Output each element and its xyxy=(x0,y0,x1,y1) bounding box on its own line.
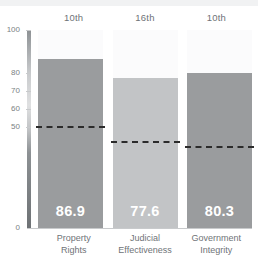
y-tick-mark-80 xyxy=(26,73,31,74)
y-tick-mark-70 xyxy=(26,91,31,92)
category-label-line-1: Government xyxy=(182,233,251,245)
bar-chart-panel: 10th 16th 10th 100 80 70 60 50 0 86.9 xyxy=(0,0,258,262)
rank-label-government-integrity: 10th xyxy=(181,11,252,25)
bar-column-government-integrity[interactable]: 80.3 xyxy=(187,28,252,230)
bar-property-rights[interactable]: 86.9 xyxy=(38,59,103,228)
y-tick-mark-60 xyxy=(26,109,31,110)
category-label-judicial-effectiveness: Judicial Effectiveness xyxy=(109,233,180,256)
bar-column-property-rights[interactable]: 86.9 xyxy=(38,28,103,230)
y-tick-label-70: 70 xyxy=(0,87,20,95)
category-label-line-1: Property xyxy=(39,233,108,245)
category-label-line-2: Integrity xyxy=(182,245,251,257)
rank-label-judicial-effectiveness: 16th xyxy=(109,11,180,25)
y-tick-label-80: 80 xyxy=(0,69,20,77)
plot-area: 100 80 70 60 50 0 86.9 xyxy=(0,28,258,230)
category-label-property-rights: Property Rights xyxy=(38,233,109,256)
top-divider-band xyxy=(0,0,258,6)
x-axis-baseline xyxy=(27,228,252,229)
category-label-line-2: Effectiveness xyxy=(110,245,179,257)
category-label-government-integrity: Government Integrity xyxy=(181,233,252,256)
world-average-marker-property-rights xyxy=(36,126,105,128)
world-average-marker-judicial-effectiveness xyxy=(111,141,180,143)
y-tick-label-100: 100 xyxy=(0,26,20,34)
world-average-marker-government-integrity xyxy=(185,146,254,148)
bar-government-integrity[interactable]: 80.3 xyxy=(187,73,252,228)
y-tick-label-60: 60 xyxy=(0,105,20,113)
rank-label-row: 10th 16th 10th xyxy=(38,11,252,25)
y-axis-scale-bar xyxy=(27,30,31,228)
bar-value-property-rights: 86.9 xyxy=(38,203,103,219)
category-label-line-1: Judicial xyxy=(110,233,179,245)
category-label-line-2: Rights xyxy=(39,245,108,257)
bar-value-judicial-effectiveness: 77.6 xyxy=(113,203,178,219)
bar-columns: 86.9 77.6 80.3 xyxy=(38,28,252,230)
bar-column-judicial-effectiveness[interactable]: 77.6 xyxy=(113,28,178,230)
y-tick-mark-100 xyxy=(26,30,31,31)
y-tick-mark-50 xyxy=(26,127,31,128)
category-label-row: Property Rights Judicial Effectiveness G… xyxy=(38,233,252,256)
rank-label-property-rights: 10th xyxy=(38,11,109,25)
y-tick-label-0: 0 xyxy=(0,224,20,232)
bar-value-government-integrity: 80.3 xyxy=(187,203,252,219)
bar-judicial-effectiveness[interactable]: 77.6 xyxy=(113,78,178,228)
y-tick-label-50: 50 xyxy=(0,123,20,131)
